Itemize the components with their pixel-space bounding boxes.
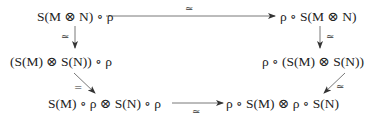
label-top-arrow: ≃ xyxy=(185,4,193,14)
label-left-vertical: ≃ xyxy=(61,32,69,42)
node-top-left: S(M ⊗ N) ∘ ρ xyxy=(37,9,113,25)
node-mid-left: (S(M) ⊗ S(N)) ∘ ρ xyxy=(10,54,112,70)
node-bottom-right: ρ ∘ S(M) ⊗ ρ ∘ S(N) xyxy=(226,96,339,112)
node-bottom-left: S(M) ∘ ρ ⊗ S(N) ∘ ρ xyxy=(48,96,161,112)
node-top-right: ρ ∘ S(M ⊗ N) xyxy=(280,9,356,25)
label-right-vertical: ≃ xyxy=(326,32,334,42)
node-mid-right: ρ ∘ (S(M) ⊗ S(N)) xyxy=(262,54,364,70)
label-right-diagonal: ≃ xyxy=(336,82,344,92)
label-left-diagonal: = xyxy=(74,83,82,93)
label-bottom-arrow: ≃ xyxy=(192,107,200,117)
